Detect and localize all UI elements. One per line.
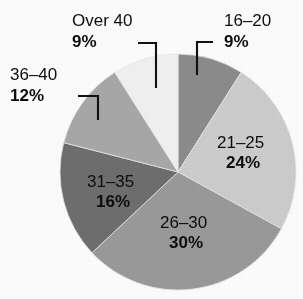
slice-label-31-35-percent: 16% bbox=[96, 192, 130, 211]
slice-label-26-30-category: 26–30 bbox=[160, 213, 207, 232]
slice-label-21-25-category: 21–25 bbox=[217, 133, 264, 152]
pie-chart: 21–25 24% 26–30 30% 31–35 16% Over 40 9%… bbox=[0, 0, 303, 299]
pie-chart-canvas: 21–25 24% 26–30 30% 31–35 16% Over 40 9%… bbox=[0, 0, 303, 299]
callout-label-over-40-category: Over 40 bbox=[72, 11, 132, 30]
callout-label-16-20-percent: 9% bbox=[224, 32, 249, 51]
callout-label-36-40: 36–40 12% bbox=[10, 65, 62, 105]
callout-label-36-40-category: 36–40 bbox=[10, 65, 57, 84]
slice-label-21-25-percent: 24% bbox=[226, 153, 260, 172]
callout-label-over-40-percent: 9% bbox=[72, 32, 97, 51]
callout-label-over-40: Over 40 9% bbox=[72, 11, 137, 51]
slice-label-31-35-category: 31–35 bbox=[87, 172, 134, 191]
slice-label-26-30-percent: 30% bbox=[169, 233, 203, 252]
callout-label-16-20: 16–20 9% bbox=[224, 11, 276, 51]
callout-label-36-40-percent: 12% bbox=[10, 86, 44, 105]
callout-label-16-20-category: 16–20 bbox=[224, 11, 271, 30]
